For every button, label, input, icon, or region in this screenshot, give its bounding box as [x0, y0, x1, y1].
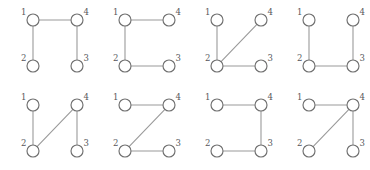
node-4: 4	[347, 92, 365, 112]
panel-7-canvas: 1423	[184, 85, 276, 170]
node-1-label: 1	[297, 7, 302, 17]
node-3: 3	[163, 53, 181, 73]
node-1: 1	[205, 7, 223, 27]
panel-2-canvas: 1423	[92, 0, 184, 85]
node-2: 2	[21, 53, 39, 73]
node-1: 1	[205, 92, 223, 112]
node-3-label: 3	[360, 138, 365, 148]
node-4-label: 4	[176, 7, 181, 17]
node-1-circle	[27, 14, 39, 26]
node-1-label: 1	[21, 92, 26, 102]
node-3: 3	[255, 53, 273, 73]
node-2: 2	[21, 138, 39, 158]
panel-7: 1423	[184, 85, 276, 170]
node-3-circle	[255, 60, 267, 72]
node-3-circle	[347, 145, 359, 157]
edge-2-4	[222, 25, 257, 61]
node-2-circle	[211, 60, 223, 72]
node-1-label: 1	[113, 7, 118, 17]
node-1: 1	[113, 7, 131, 27]
node-4-label: 4	[84, 7, 89, 17]
panel-3: 1423	[184, 0, 276, 85]
node-1-circle	[27, 99, 39, 111]
panel-4-canvas: 1423	[276, 0, 368, 85]
node-2-circle	[303, 60, 315, 72]
node-3-label: 3	[268, 138, 273, 148]
node-1-circle	[303, 14, 315, 26]
node-1: 1	[297, 7, 315, 27]
node-3: 3	[347, 138, 365, 158]
node-4-circle	[71, 99, 83, 111]
panel-1-canvas: 1423	[0, 0, 92, 85]
node-1-circle	[119, 14, 131, 26]
panel-2: 1423	[92, 0, 184, 85]
node-2-circle	[27, 60, 39, 72]
node-2: 2	[297, 53, 315, 73]
node-3-label: 3	[360, 53, 365, 63]
node-4: 4	[163, 92, 181, 112]
node-4: 4	[163, 7, 181, 27]
panel-6: 1423	[92, 85, 184, 170]
node-3-circle	[71, 60, 83, 72]
node-4-circle	[71, 14, 83, 26]
node-4: 4	[71, 7, 89, 27]
node-4-label: 4	[360, 92, 365, 102]
node-4: 4	[347, 7, 365, 27]
node-2: 2	[297, 138, 315, 158]
node-4: 4	[255, 7, 273, 27]
panel-1: 1423	[0, 0, 92, 85]
node-4-circle	[163, 14, 175, 26]
node-3-circle	[71, 145, 83, 157]
node-4-label: 4	[84, 92, 89, 102]
node-3-label: 3	[268, 53, 273, 63]
node-3: 3	[255, 138, 273, 158]
edge-2-4	[38, 110, 73, 146]
node-3: 3	[71, 53, 89, 73]
panel-3-canvas: 1423	[184, 0, 276, 85]
node-2-label: 2	[297, 53, 302, 63]
node-1-circle	[119, 99, 131, 111]
node-3: 3	[163, 138, 181, 158]
node-1: 1	[21, 7, 39, 27]
node-3-label: 3	[176, 138, 181, 148]
node-2-circle	[211, 145, 223, 157]
node-2: 2	[113, 53, 131, 73]
panel-4: 1423	[276, 0, 368, 85]
panel-6-canvas: 1423	[92, 85, 184, 170]
node-2: 2	[113, 138, 131, 158]
node-2-label: 2	[21, 138, 26, 148]
node-2-label: 2	[297, 138, 302, 148]
node-3: 3	[71, 138, 89, 158]
panel-5-canvas: 1423	[0, 85, 92, 170]
panel-8-canvas: 1423	[276, 85, 368, 170]
node-3-circle	[163, 60, 175, 72]
edge-4-2	[314, 110, 349, 146]
node-4-label: 4	[268, 7, 273, 17]
node-1: 1	[113, 92, 131, 112]
edge-4-2	[130, 110, 165, 146]
node-4: 4	[255, 92, 273, 112]
node-4-label: 4	[268, 92, 273, 102]
node-1-label: 1	[205, 92, 210, 102]
node-4: 4	[71, 92, 89, 112]
node-2-label: 2	[205, 138, 210, 148]
node-2: 2	[205, 138, 223, 158]
node-4-circle	[255, 99, 267, 111]
node-3-circle	[347, 60, 359, 72]
node-1-label: 1	[205, 7, 210, 17]
node-2-circle	[119, 60, 131, 72]
node-4-circle	[163, 99, 175, 111]
node-2-circle	[119, 145, 131, 157]
node-4-label: 4	[176, 92, 181, 102]
node-4-circle	[347, 99, 359, 111]
node-3-circle	[163, 145, 175, 157]
node-4-circle	[255, 14, 267, 26]
node-2-circle	[27, 145, 39, 157]
node-1-circle	[303, 99, 315, 111]
node-1: 1	[21, 92, 39, 112]
node-1-circle	[211, 99, 223, 111]
node-3-label: 3	[176, 53, 181, 63]
node-2-label: 2	[21, 53, 26, 63]
node-1: 1	[297, 92, 315, 112]
node-4-circle	[347, 14, 359, 26]
